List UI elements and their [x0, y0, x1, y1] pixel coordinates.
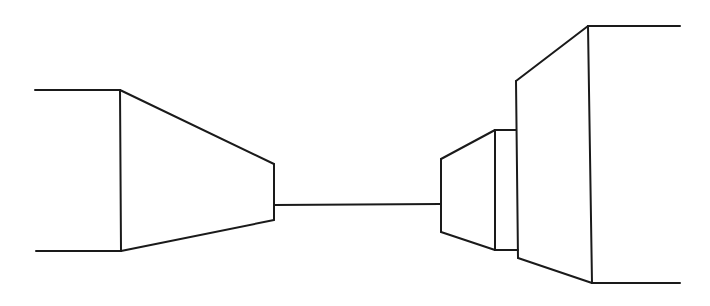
left-block — [35, 90, 274, 251]
right-block-back-vertical — [588, 26, 592, 283]
middle-right-block-top-diagonal — [441, 130, 495, 159]
middle-right-block-bottom-diagonal — [441, 232, 495, 250]
connector-line — [274, 204, 441, 205]
drawing-svg — [0, 0, 710, 306]
left-block-front-vertical — [120, 90, 121, 251]
right-block-bottom-diagonal — [518, 258, 592, 283]
middle-right-block — [441, 130, 518, 250]
left-block-top-diagonal — [120, 90, 274, 164]
left-block-bottom-diagonal — [121, 220, 274, 251]
connector-line — [274, 204, 441, 205]
perspective-drawing — [0, 0, 710, 306]
right-block — [516, 26, 680, 283]
right-block-top-diagonal — [516, 26, 588, 81]
right-block-front-vertical — [516, 81, 518, 258]
